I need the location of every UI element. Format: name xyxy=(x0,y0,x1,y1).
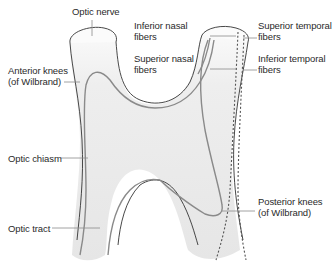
label-inferior-temporal-fibers: Inferior temporal fibers xyxy=(258,53,325,75)
label-anterior-knees: Anterior knees (of Wilbrand) xyxy=(8,65,68,87)
left-optic-nerve-cap xyxy=(70,27,117,43)
label-posterior-knees: Posterior knees (of Wilbrand) xyxy=(258,196,323,218)
label-optic-chiasm: Optic chiasm xyxy=(8,153,62,164)
label-inferior-nasal-fibers: Inferior nasal fibers xyxy=(134,20,188,42)
label-superior-temporal-fibers: Superior temporal fibers xyxy=(258,20,332,42)
label-superior-nasal-fibers: Superior nasal fibers xyxy=(134,53,194,75)
nasal-fiber-lower-left xyxy=(108,179,160,255)
label-optic-nerve: Optic nerve xyxy=(72,6,119,17)
label-optic-tract: Optic tract xyxy=(8,223,50,234)
